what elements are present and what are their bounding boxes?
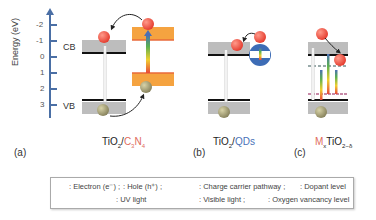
cb-label: CB xyxy=(63,42,76,52)
tick: 1 xyxy=(40,68,44,77)
tick: -1 xyxy=(36,36,43,45)
legend-dopant: : Dopant level xyxy=(300,182,346,191)
vb-label: VB xyxy=(63,101,75,111)
legend-uv: : UV light xyxy=(116,195,146,204)
caption-b: TiO2/QDs xyxy=(213,136,255,149)
legend-electron: : Electron (e⁻) ; xyxy=(69,182,120,191)
legend-pathway: : Charge carrier pathway ; xyxy=(199,182,285,191)
tick: 0 xyxy=(40,52,44,61)
tick: 3 xyxy=(40,100,44,109)
tick: -2 xyxy=(36,20,43,29)
panel-label-b: (b) xyxy=(193,147,205,158)
tick: 2 xyxy=(40,84,44,93)
caption-a: TiO2/C3N4 xyxy=(102,136,145,149)
legend-oxygen: : Oxygen vancancy level xyxy=(268,195,349,204)
legend-hole: : Hole (h⁺) ; xyxy=(123,182,162,191)
panel-a-tio2-bands xyxy=(82,31,126,116)
panel-label-c: (c) xyxy=(294,147,306,158)
caption-c: MxTiO2−δ xyxy=(315,136,352,149)
energy-axis xyxy=(46,8,57,118)
axis-label: Energy (eV) xyxy=(10,18,20,66)
panel-b-bands xyxy=(208,31,271,118)
legend-visible: : Visible light ; xyxy=(199,195,245,204)
panel-label-a: (a) xyxy=(14,147,26,158)
panel-c-bands xyxy=(308,28,348,118)
